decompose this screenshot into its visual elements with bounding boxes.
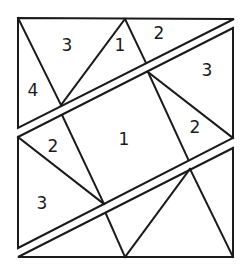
top-cut-line	[18, 18, 61, 105]
region-label: 2	[154, 23, 165, 43]
bottom-cut-line	[190, 169, 233, 257]
region-label: 1	[119, 129, 130, 149]
top-cut-line	[61, 19, 125, 105]
middle-cut-line	[62, 115, 104, 204]
region-label: 1	[115, 35, 126, 55]
bottom-piece-outline	[18, 148, 233, 257]
dissection-diagram: 4312 21323	[0, 0, 252, 276]
bottom-cut-line	[106, 214, 125, 257]
middle-piece: 21323	[18, 28, 233, 248]
middle-cut-line	[18, 137, 104, 204]
bottom-piece	[18, 148, 233, 257]
middle-cut-line	[148, 72, 188, 159]
region-label: 4	[28, 80, 39, 100]
region-label: 3	[202, 60, 213, 80]
region-label: 2	[48, 136, 59, 156]
top-cut-line	[125, 19, 146, 63]
region-label: 3	[62, 35, 73, 55]
bottom-cut-line	[125, 169, 190, 257]
diagram-svg: 4312 21323	[0, 0, 252, 276]
region-label: 3	[37, 193, 48, 213]
region-label: 2	[190, 117, 201, 137]
